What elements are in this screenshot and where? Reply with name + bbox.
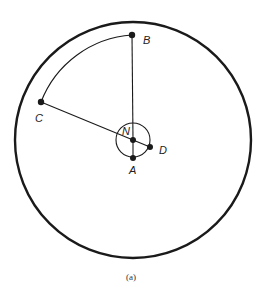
figure-caption: (a)	[126, 272, 136, 282]
label-n: N	[122, 125, 130, 137]
point-a	[130, 155, 136, 161]
geometry-figure: B C N D A (a)	[0, 0, 262, 301]
point-c	[38, 99, 44, 105]
label-d: D	[159, 144, 167, 156]
label-c: C	[35, 112, 43, 124]
point-n	[130, 137, 136, 143]
point-b	[129, 32, 135, 38]
arc-bc	[41, 35, 132, 102]
segment-nb	[132, 35, 133, 140]
label-b: B	[143, 34, 150, 46]
label-a: A	[128, 164, 136, 176]
point-d	[147, 144, 153, 150]
